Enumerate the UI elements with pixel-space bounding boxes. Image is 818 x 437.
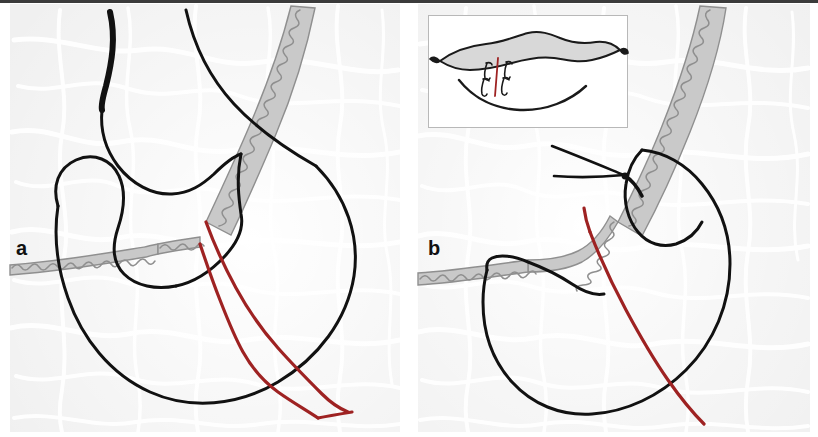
inset-panel: [0, 0, 818, 437]
figure-container: a b: [0, 0, 818, 437]
panel-label-a: a: [16, 238, 27, 258]
panel-label-b: b: [428, 238, 440, 258]
